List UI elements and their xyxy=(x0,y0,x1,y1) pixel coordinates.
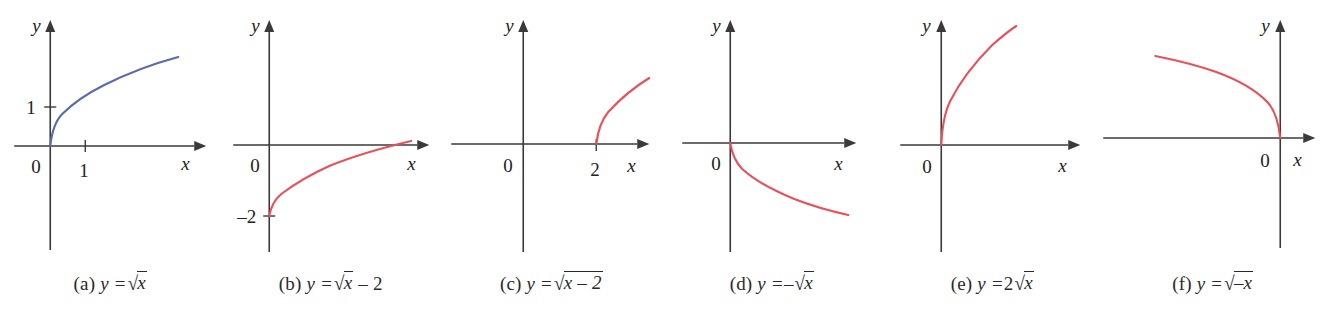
caption-e-radical: √x xyxy=(1014,272,1034,295)
y-axis-label: y xyxy=(710,15,721,36)
caption-d-equals: = xyxy=(771,273,784,294)
caption-b: (b) y =√x – 2 xyxy=(221,272,442,295)
caption-a: (a) y =√x xyxy=(0,272,221,295)
caption-f-label: (f) xyxy=(1172,273,1192,294)
caption-d-prefix: – xyxy=(784,273,794,294)
origin-label: 0 xyxy=(711,153,721,174)
curve-2-sqrt-x xyxy=(941,26,1016,145)
caption-d: (d) y =–√x xyxy=(662,272,883,295)
panel-c-plot: y x 0 2 xyxy=(441,0,662,268)
panel-c: y x 0 2 (c) y =√x – 2 xyxy=(441,0,662,328)
caption-e-label: (e) xyxy=(951,273,973,294)
figure-panel-row: y x 0 1 1 (a) y =√x y x 0 xyxy=(0,0,1323,328)
y-tick-label-neg2: –2 xyxy=(236,206,256,227)
caption-c: (c) y =√x – 2 xyxy=(441,272,662,295)
panel-e: y x 0 (e) y =2√x xyxy=(882,0,1103,328)
caption-f-equals: = xyxy=(1210,273,1223,294)
caption-b-equals: = xyxy=(320,273,333,294)
caption-b-radical: √x xyxy=(333,272,353,295)
caption-f-radicand: –x xyxy=(1234,271,1253,294)
caption-d-radicand: x xyxy=(804,271,814,294)
x-axis-label: x xyxy=(833,153,843,174)
panel-f: y x 0 (f) y =√–x xyxy=(1103,0,1323,328)
curve-sqrt-x-minus-2 xyxy=(269,141,411,216)
x-axis-label: x xyxy=(626,155,636,176)
caption-a-lhs: y xyxy=(100,273,109,294)
x-axis-arrowhead xyxy=(1303,133,1315,143)
caption-c-equals: = xyxy=(540,273,553,294)
caption-a-equals: = xyxy=(114,273,127,294)
y-axis-label: y xyxy=(30,15,41,36)
panel-a-plot: y x 0 1 1 xyxy=(0,0,221,268)
panel-d: y x 0 (d) y =–√x xyxy=(662,0,883,328)
caption-f-lhs: y xyxy=(1197,273,1206,294)
curve-sqrt-neg-x xyxy=(1155,56,1280,138)
caption-a-radicand: x xyxy=(137,271,147,294)
x-tick-label-2: 2 xyxy=(590,159,600,180)
y-tick-label-1: 1 xyxy=(26,97,36,118)
origin-label: 0 xyxy=(1260,150,1270,171)
x-axis-arrowhead xyxy=(637,139,649,149)
caption-c-label: (c) xyxy=(500,273,522,294)
curve-neg-sqrt-x xyxy=(730,143,848,215)
y-axis-arrowhead xyxy=(936,20,946,32)
caption-b-label: (b) xyxy=(279,273,302,294)
curve-sqrt-x xyxy=(50,57,178,146)
caption-f-radical: √–x xyxy=(1223,272,1253,295)
caption-e-lhs: y xyxy=(977,273,986,294)
panel-b-plot: y x 0 –2 xyxy=(221,0,442,268)
caption-d-lhs: y xyxy=(757,273,766,294)
panel-e-plot: y x 0 xyxy=(882,0,1103,268)
caption-e: (e) y =2√x xyxy=(882,272,1103,295)
x-tick-label-1: 1 xyxy=(79,160,89,181)
x-axis-arrowhead xyxy=(844,138,856,148)
y-axis-arrowhead xyxy=(1275,20,1285,32)
y-axis-label: y xyxy=(249,15,260,36)
origin-label: 0 xyxy=(250,155,260,176)
caption-c-lhs: y xyxy=(527,273,536,294)
y-axis-label: y xyxy=(503,15,514,36)
y-axis-arrowhead xyxy=(725,20,735,32)
panel-b: y x 0 –2 (b) y =√x – 2 xyxy=(221,0,442,328)
caption-b-lhs: y xyxy=(307,273,316,294)
caption-b-suffix: – 2 xyxy=(358,273,382,294)
caption-d-label: (d) xyxy=(730,273,753,294)
x-axis-label: x xyxy=(406,153,416,174)
y-axis-label: y xyxy=(1259,15,1270,36)
y-axis-label: y xyxy=(920,15,931,36)
panel-a: y x 0 1 1 (a) y =√x xyxy=(0,0,221,328)
caption-e-prefix: 2 xyxy=(1004,273,1014,294)
x-axis-arrowhead xyxy=(417,140,429,150)
y-axis-arrowhead xyxy=(264,20,274,32)
caption-e-radicand: x xyxy=(1024,271,1034,294)
caption-e-equals: = xyxy=(991,273,1004,294)
curve-sqrt-x-minus-2-shifted xyxy=(596,78,649,144)
x-axis-label: x xyxy=(1057,155,1067,176)
x-axis-label: x xyxy=(180,153,190,174)
x-axis-arrowhead xyxy=(194,141,206,151)
origin-label: 0 xyxy=(31,156,41,177)
y-axis-arrowhead xyxy=(45,20,55,32)
caption-c-radicand: x – 2 xyxy=(564,271,603,294)
y-axis-arrowhead xyxy=(518,20,528,32)
origin-label: 0 xyxy=(503,155,513,176)
x-axis-label: x xyxy=(1292,149,1302,170)
panel-d-plot: y x 0 xyxy=(662,0,883,268)
x-axis-arrowhead xyxy=(1068,140,1080,150)
origin-label: 0 xyxy=(922,156,932,177)
caption-b-radicand: x xyxy=(344,271,354,294)
panel-f-plot: y x 0 xyxy=(1103,0,1323,268)
caption-a-radical: √x xyxy=(127,272,147,295)
caption-d-radical: √x xyxy=(794,272,814,295)
caption-f: (f) y =√–x xyxy=(1103,272,1323,295)
caption-a-label: (a) xyxy=(74,273,96,294)
caption-c-radical: √x – 2 xyxy=(553,272,603,295)
